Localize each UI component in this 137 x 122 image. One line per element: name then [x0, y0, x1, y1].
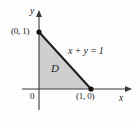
figure-region-d: (0, 1) (1, 0) y x D x + y = 1 0 — [0, 0, 137, 122]
label-axis-x: x — [119, 94, 123, 104]
figure-canvas — [0, 0, 137, 122]
label-equation: x + y = 1 — [68, 46, 104, 56]
x-axis-arrowhead — [125, 86, 132, 92]
label-axis-y: y — [30, 7, 34, 17]
y-axis-arrowhead — [36, 10, 42, 17]
label-point-1-0: (1, 0) — [76, 92, 94, 101]
point-marker-0-1 — [36, 29, 41, 34]
label-origin: 0 — [30, 92, 34, 101]
label-region-d: D — [51, 63, 59, 74]
label-point-0-1: (0, 1) — [11, 27, 29, 36]
